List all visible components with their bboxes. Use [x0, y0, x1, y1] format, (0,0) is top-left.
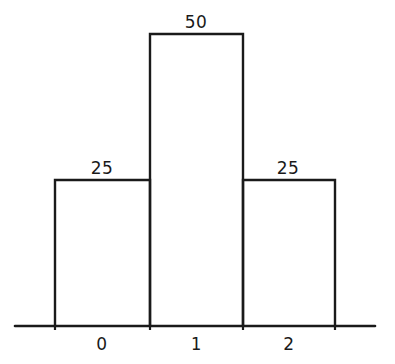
bars-group [55, 34, 335, 326]
bar-category-2 [243, 180, 335, 326]
bar-value-label-1: 50 [185, 12, 208, 32]
bar-category-0 [55, 180, 150, 326]
bar-value-label-0: 25 [91, 158, 114, 178]
x-tick-label-0: 0 [96, 334, 107, 354]
x-tick-label-2: 2 [283, 334, 294, 354]
histogram-figure: 25 50 25 0 1 2 [0, 0, 395, 364]
bar-category-1 [150, 34, 243, 326]
histogram-plot [0, 0, 395, 364]
bar-value-label-2: 25 [277, 158, 300, 178]
x-tick-label-1: 1 [191, 334, 202, 354]
